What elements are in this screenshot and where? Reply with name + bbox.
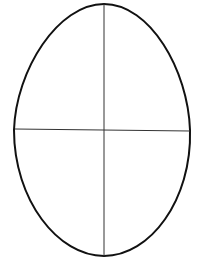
- background: [0, 0, 200, 269]
- egg-diagram: [0, 0, 200, 269]
